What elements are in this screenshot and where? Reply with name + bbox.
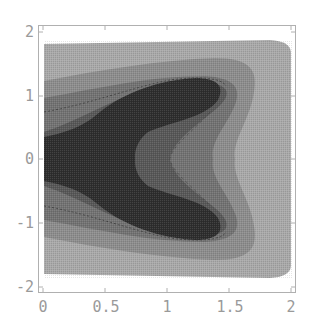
y-tick-label: 2 [25,23,34,41]
x-tick-label: 1.5 [216,298,243,316]
x-tick-label: 1 [162,298,171,316]
y-tick-label: -2 [16,278,34,296]
y-tick-label: 0 [25,150,34,168]
x-tick-label: 0.5 [92,298,119,316]
y-tick-label: -1 [16,214,34,232]
x-tick-label: 2 [286,298,295,316]
x-tick-label: 0 [38,298,47,316]
y-tick-label: 1 [25,87,34,105]
dither-overlay [44,40,292,278]
contour-plot: 0 0.5 1 1.5 2 2 1 0 -1 -2 [0,0,312,333]
